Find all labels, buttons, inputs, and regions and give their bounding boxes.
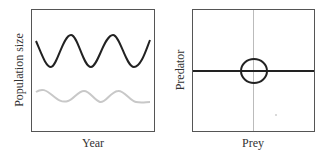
prey-curve bbox=[36, 90, 150, 103]
time-series-panel: Population size Year bbox=[12, 10, 155, 151]
x-axis-label: Year bbox=[82, 136, 104, 150]
predator-curve bbox=[36, 35, 150, 67]
figure: Population size Year Predator Prey bbox=[0, 0, 327, 155]
stray-dot bbox=[275, 114, 276, 115]
phase-plane-panel: Predator Prey bbox=[173, 10, 315, 151]
y-axis-label: Population size bbox=[12, 33, 26, 107]
x-axis-label: Prey bbox=[242, 136, 264, 150]
plot-frame bbox=[32, 10, 155, 132]
y-axis-label: Predator bbox=[173, 50, 187, 91]
